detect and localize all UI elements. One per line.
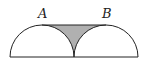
- label-a: A: [37, 6, 47, 21]
- semicircles-diagram: A B: [0, 0, 150, 70]
- label-b: B: [101, 6, 112, 21]
